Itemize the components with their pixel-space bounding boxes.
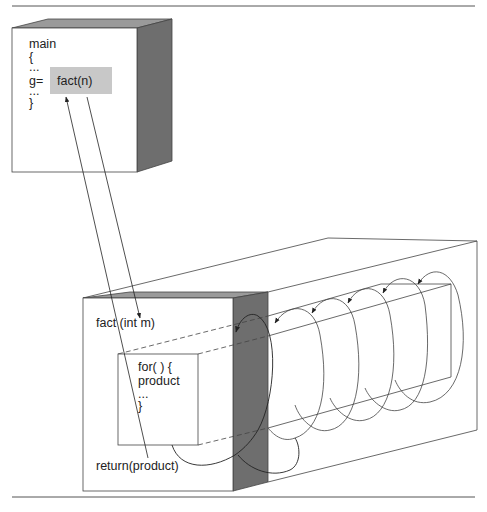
return-statement: return(product): [96, 459, 179, 473]
fact-signature: fact (int m): [96, 316, 155, 330]
main-line-2: ...: [29, 60, 39, 74]
loop-iteration-arcs: [268, 272, 463, 440]
main-box: main { ... g= ... } fact(n): [12, 19, 172, 172]
diagram-canvas: main { ... g= ... } fact(n): [0, 0, 487, 512]
main-box-side-face: [137, 19, 172, 172]
loop-line-0: for( ) {: [138, 360, 172, 374]
call-expression: fact(n): [57, 74, 92, 88]
loop-line-3: }: [138, 399, 142, 413]
fact-box-side-face: [233, 292, 268, 491]
main-line-0: main: [29, 37, 56, 51]
loop-line-1: product: [138, 374, 180, 388]
main-line-5: }: [29, 96, 33, 110]
